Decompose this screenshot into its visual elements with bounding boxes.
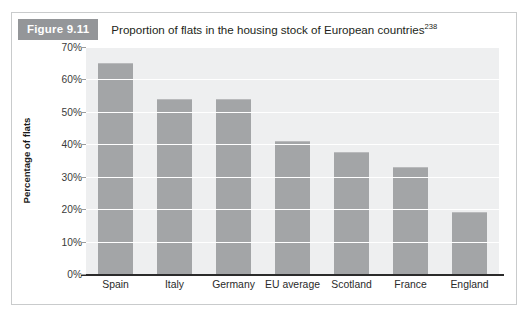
- x-axis-tick-labels: SpainItalyGermanyEU averageScotlandFranc…: [86, 279, 499, 301]
- y-axis-tick-label: 60%: [38, 74, 82, 85]
- bar: [157, 99, 192, 274]
- gridline: [86, 112, 499, 113]
- bar: [334, 152, 369, 274]
- x-axis-tick-label: EU average: [265, 279, 320, 290]
- bar: [452, 212, 487, 274]
- y-axis-tick-labels: 0%10%20%30%40%50%60%70%: [38, 47, 82, 279]
- bars-layer: [86, 47, 499, 274]
- x-axis-line: [81, 274, 504, 276]
- y-axis-tick-label: 40%: [38, 139, 82, 150]
- y-axis-tick: [81, 274, 86, 275]
- bar: [275, 141, 310, 274]
- x-axis-tick-label: Spain: [102, 279, 129, 290]
- y-axis-tick: [81, 242, 86, 243]
- figure-caption-row: Figure 9.11 Proportion of flats in the h…: [12, 13, 516, 46]
- figure-caption-footnote-ref: 238: [425, 22, 438, 31]
- y-axis-tick-label: 0%: [38, 269, 82, 280]
- gridline: [86, 209, 499, 210]
- gridline: [86, 242, 499, 243]
- y-axis-tick-label: 20%: [38, 204, 82, 215]
- y-axis-tick: [81, 112, 86, 113]
- figure-root: Figure 9.11 Proportion of flats in the h…: [0, 0, 529, 323]
- y-axis-tick: [81, 47, 86, 48]
- plot-area: [86, 47, 499, 274]
- gridline: [86, 177, 499, 178]
- x-axis-tick-label: Germany: [212, 279, 255, 290]
- y-axis-tick: [81, 177, 86, 178]
- chart-container: Percentage of flats 0%10%20%30%40%50%60%…: [12, 47, 516, 304]
- figure-caption-main: Proportion of flats in the housing stock…: [111, 23, 424, 36]
- x-axis-tick-label: Scotland: [331, 279, 371, 290]
- y-axis-tick: [81, 209, 86, 210]
- y-axis-title: Percentage of flats: [21, 96, 32, 226]
- y-axis-tick: [81, 144, 86, 145]
- y-axis-tick-label: 70%: [38, 42, 82, 53]
- x-axis-tick-label: Italy: [165, 279, 184, 290]
- gridline: [86, 47, 499, 48]
- y-axis-tick-label: 30%: [38, 171, 82, 182]
- y-axis-tick-label: 10%: [38, 236, 82, 247]
- figure-number-badge: Figure 9.11: [18, 19, 98, 40]
- gridline: [86, 144, 499, 145]
- y-axis-tick: [81, 79, 86, 80]
- bar: [393, 167, 428, 274]
- bar: [216, 99, 251, 274]
- y-axis-tick-label: 50%: [38, 106, 82, 117]
- x-axis-tick-label: England: [450, 279, 488, 290]
- x-axis-tick-label: France: [394, 279, 426, 290]
- figure-caption: Proportion of flats in the housing stock…: [111, 23, 437, 37]
- gridline: [86, 79, 499, 80]
